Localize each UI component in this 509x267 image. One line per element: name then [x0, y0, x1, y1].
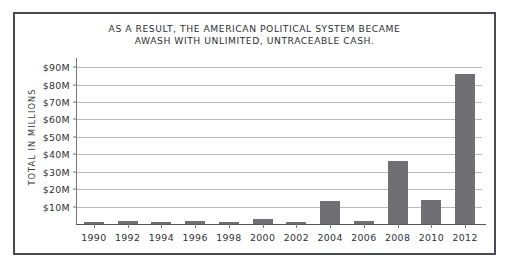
y-tick-mark — [73, 171, 77, 172]
bar — [455, 74, 475, 224]
gridline — [77, 137, 482, 138]
bar — [421, 200, 441, 224]
y-tick-mark — [73, 206, 77, 207]
y-tick-label: $90M — [43, 62, 70, 73]
gridline — [77, 119, 482, 120]
x-tick-mark — [94, 224, 95, 228]
x-tick-mark — [296, 224, 297, 228]
bar — [388, 161, 408, 224]
gridline — [77, 172, 482, 173]
y-tick-label: $80M — [43, 79, 70, 90]
x-tick-mark — [161, 224, 162, 228]
y-tick-mark — [73, 102, 77, 103]
x-tick-label: 1996 — [183, 232, 208, 243]
x-tick-label: 1998 — [216, 232, 241, 243]
x-tick-mark — [195, 224, 196, 228]
y-tick-mark — [73, 189, 77, 190]
x-tick-mark — [263, 224, 264, 228]
y-tick-label: $10M — [43, 201, 70, 212]
y-tick-label: $70M — [43, 97, 70, 108]
x-tick-mark — [431, 224, 432, 228]
gridline — [77, 102, 482, 103]
x-tick-label: 2004 — [318, 232, 343, 243]
y-tick-mark — [73, 119, 77, 120]
x-tick-label: 2008 — [385, 232, 410, 243]
chart-title: AS A RESULT, THE AMERICAN POLITICAL SYST… — [15, 23, 494, 47]
x-tick-label: 2010 — [419, 232, 444, 243]
x-tick-label: 1992 — [115, 232, 140, 243]
gridline — [77, 67, 482, 68]
x-tick-label: 2012 — [453, 232, 478, 243]
y-tick-label: $60M — [43, 114, 70, 125]
x-tick-mark — [364, 224, 365, 228]
y-tick-label: $20M — [43, 184, 70, 195]
plot-inner: $10M$20M$30M$40M$50M$60M$70M$80M$90M 199… — [77, 62, 482, 224]
bar — [320, 201, 340, 224]
x-tick-mark — [330, 224, 331, 228]
gridline — [77, 189, 482, 190]
y-tick-mark — [73, 84, 77, 85]
y-tick-label: $40M — [43, 149, 70, 160]
plot-area: $10M$20M$30M$40M$50M$60M$70M$80M$90M 199… — [77, 62, 482, 224]
x-tick-mark — [128, 224, 129, 228]
gridline — [77, 154, 482, 155]
x-tick-label: 2006 — [351, 232, 376, 243]
x-tick-mark — [465, 224, 466, 228]
x-axis-line — [76, 224, 486, 225]
x-tick-mark — [229, 224, 230, 228]
y-tick-label: $50M — [43, 131, 70, 142]
x-tick-label: 1994 — [149, 232, 174, 243]
y-tick-mark — [73, 136, 77, 137]
gridline — [77, 85, 482, 86]
chart-panel: AS A RESULT, THE AMERICAN POLITICAL SYST… — [13, 12, 496, 255]
x-tick-mark — [398, 224, 399, 228]
y-tick-mark — [73, 67, 77, 68]
y-axis-line — [76, 58, 77, 225]
y-axis-title: TOTAL IN MILLIONS — [27, 77, 37, 197]
x-tick-label: 2000 — [250, 232, 275, 243]
y-tick-mark — [73, 154, 77, 155]
x-tick-label: 1990 — [81, 232, 106, 243]
x-tick-label: 2002 — [284, 232, 309, 243]
y-tick-label: $30M — [43, 166, 70, 177]
